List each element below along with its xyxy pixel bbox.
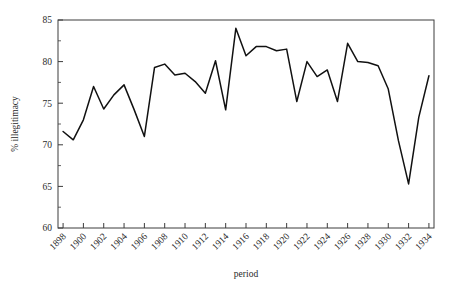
x-tick-label: 1926	[332, 231, 353, 252]
y-tick-label: 75	[43, 99, 53, 109]
x-tick-label: 1898	[47, 231, 68, 252]
x-tick-label: 1930	[373, 231, 394, 252]
axis-layer	[58, 20, 434, 228]
x-tick-label: 1920	[271, 231, 292, 252]
x-tick-label: 1906	[129, 231, 150, 252]
x-tick-label: 1914	[210, 231, 231, 252]
y-tick-label: 65	[43, 182, 53, 192]
x-tick-label: 1902	[88, 231, 109, 252]
x-tick-labels: 1898190019021904190619081910191219141916…	[47, 231, 434, 252]
x-tick-label: 1912	[190, 231, 211, 252]
x-tick-label: 1924	[312, 231, 333, 252]
x-tick-label: 1934	[413, 231, 434, 252]
x-tick-label: 1932	[393, 231, 414, 252]
x-tick-label: 1904	[108, 231, 129, 252]
x-tick-label: 1908	[149, 231, 170, 252]
x-tick-label: 1928	[352, 231, 373, 252]
y-tick-labels: 606570758085	[43, 15, 53, 233]
x-tick-label: 1918	[251, 231, 272, 252]
x-tick-label: 1922	[291, 231, 312, 252]
illegitimacy-line-chart: 606570758085 189819001902190419061908191…	[0, 0, 457, 293]
y-tick-label: 70	[43, 140, 53, 150]
x-tick-label: 1916	[230, 231, 251, 252]
x-axis-title: period	[234, 269, 259, 279]
x-tick-label: 1900	[68, 231, 89, 252]
x-tick-label: 1910	[169, 231, 190, 252]
y-tick-label: 80	[43, 57, 53, 67]
y-axis-title: % illegitimacy	[10, 96, 20, 152]
y-tick-label: 85	[43, 15, 53, 25]
illegitimacy-series-line	[63, 28, 429, 184]
y-tick-label: 60	[43, 223, 53, 233]
chart-figure: 606570758085 189819001902190419061908191…	[0, 0, 457, 293]
